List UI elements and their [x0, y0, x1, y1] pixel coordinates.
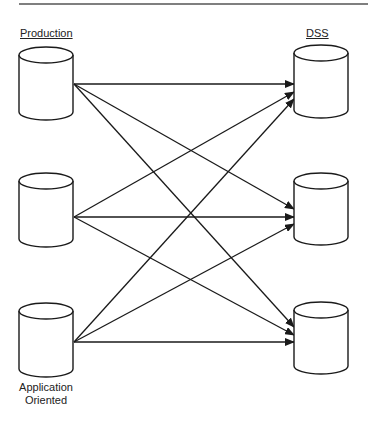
production-header: Production [20, 27, 73, 40]
dss-database-2 [294, 173, 348, 245]
production-database-3 [19, 303, 73, 377]
footer-label-line2: Oriented [6, 394, 86, 407]
edge-prod3-dss2 [74, 224, 294, 342]
edge-prod1-dss3 [74, 84, 294, 327]
dss-database-1 [294, 45, 348, 118]
dss-database-3 [294, 302, 348, 374]
footer-label-line1: Application [6, 381, 86, 394]
edge-prod2-dss1 [74, 92, 294, 217]
edge-prod1-dss2 [74, 84, 294, 209]
edges [74, 84, 294, 342]
production-database-2 [19, 173, 73, 247]
dss-header: DSS [306, 27, 329, 40]
edge-prod2-dss3 [74, 217, 294, 335]
edge-prod3-dss1 [74, 99, 294, 342]
production-database-1 [19, 47, 73, 120]
data-flow-diagram [0, 0, 368, 424]
